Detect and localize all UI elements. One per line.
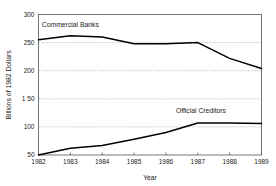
y-tick-label-150: 1 50 (22, 95, 35, 102)
y-axis-title: Billions of 1982 Dollars (5, 50, 12, 120)
x-axis-title: Year (143, 174, 157, 181)
y-tick-label-300: 300 (24, 11, 35, 18)
x-tick-label-1985: 1985 (127, 158, 142, 165)
x-tick-label-1987: 1987 (191, 158, 206, 165)
x-tick-label-1982: 1982 (31, 158, 46, 165)
x-tick-label-1988: 1988 (222, 158, 237, 165)
y-tick-label-200: 200 (24, 67, 35, 74)
y-tick-label-100: 100 (24, 123, 35, 130)
y-tick-label-250: 250 (24, 39, 35, 46)
x-tick-label-1986: 1986 (159, 158, 174, 165)
line-chart: 501001 50200250300 198219831984198519861… (0, 0, 276, 186)
series-label-official-creditors: Official Creditors (176, 107, 227, 114)
x-tick-label-1989: 1989 (254, 158, 269, 165)
x-tick-label-1983: 1983 (63, 158, 78, 165)
series-label-commercial-banks: Commercial Banks (42, 21, 100, 28)
chart-container: 501001 50200250300 198219831984198519861… (0, 0, 276, 186)
x-tick-label-1984: 1984 (95, 158, 110, 165)
